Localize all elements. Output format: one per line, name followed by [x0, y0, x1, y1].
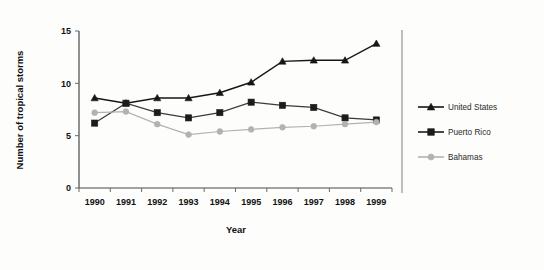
circle-marker-icon — [428, 154, 434, 160]
circle-marker-icon — [248, 126, 254, 132]
triangle-marker-icon — [91, 94, 98, 100]
square-marker-icon — [154, 110, 160, 116]
circle-marker-icon — [311, 123, 317, 129]
y-axis-title: Number of tropical storms — [14, 51, 25, 170]
square-marker-icon — [311, 104, 317, 110]
chart-legend: United StatesPuerto RicoBahamas — [418, 103, 497, 162]
y-tick-label: 5 — [66, 131, 71, 141]
legend-item-puerto-rico[interactable]: Puerto Rico — [418, 128, 491, 137]
circle-marker-icon — [186, 132, 192, 138]
legend-label: United States — [448, 103, 497, 112]
x-tick-label: 1993 — [179, 197, 199, 207]
circle-marker-icon — [373, 119, 379, 125]
square-marker-icon — [279, 102, 285, 108]
circle-marker-icon — [280, 124, 286, 130]
y-tick-label: 0 — [66, 183, 71, 193]
legend-label: Puerto Rico — [448, 128, 491, 137]
circle-marker-icon — [92, 110, 98, 116]
series-united-states — [91, 40, 380, 106]
y-tick-label: 10 — [61, 79, 71, 89]
legend-label: Bahamas — [448, 153, 483, 162]
square-marker-icon — [217, 110, 223, 116]
square-marker-icon — [428, 129, 435, 136]
square-marker-icon — [92, 120, 98, 126]
circle-marker-icon — [342, 121, 348, 127]
data-series-layer — [91, 40, 380, 138]
series-line — [95, 112, 377, 135]
chart-figure: 051015 199019911992199319941995199619971… — [0, 0, 544, 270]
triangle-marker-icon — [373, 40, 380, 46]
square-marker-icon — [123, 100, 129, 106]
x-axis-tick-labels: 1990199119921993199419951996199719981999 — [85, 197, 387, 207]
series-bahamas — [92, 109, 380, 138]
x-tick-label: 1996 — [272, 197, 292, 207]
square-marker-icon — [185, 115, 191, 121]
triangle-marker-icon — [248, 79, 255, 85]
legend-item-bahamas[interactable]: Bahamas — [418, 153, 483, 162]
series-line — [95, 44, 377, 104]
circle-marker-icon — [123, 109, 129, 115]
x-tick-label: 1998 — [335, 197, 355, 207]
circle-marker-icon — [154, 121, 160, 127]
x-tick-label: 1994 — [210, 197, 230, 207]
x-axis-title: Year — [226, 224, 246, 235]
square-marker-icon — [248, 99, 254, 105]
square-marker-icon — [342, 115, 348, 121]
x-tick-label: 1990 — [85, 197, 105, 207]
y-axis-tick-labels: 051015 — [61, 26, 71, 193]
x-tick-label: 1991 — [116, 197, 136, 207]
line-chart-canvas: 051015 199019911992199319941995199619971… — [0, 0, 544, 270]
x-tick-label: 1995 — [241, 197, 261, 207]
circle-marker-icon — [217, 129, 223, 135]
x-tick-label: 1999 — [366, 197, 386, 207]
legend-item-united-states[interactable]: United States — [418, 103, 497, 112]
y-tick-label: 15 — [61, 26, 71, 36]
x-tick-label: 1997 — [304, 197, 324, 207]
x-tick-label: 1992 — [147, 197, 167, 207]
series-line — [95, 102, 377, 123]
series-puerto-rico — [92, 99, 380, 126]
